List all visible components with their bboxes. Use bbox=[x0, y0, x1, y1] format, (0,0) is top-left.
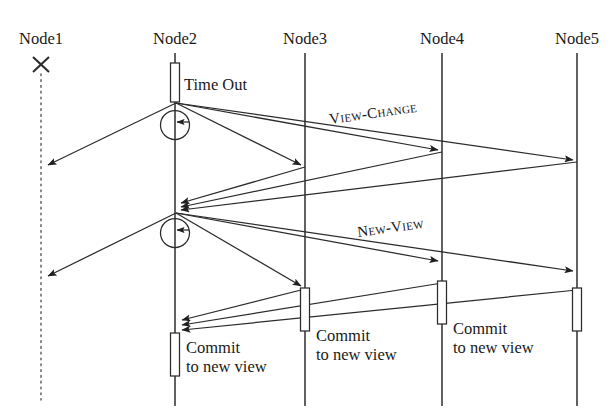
lifeline-header-node1: Node1 bbox=[19, 29, 63, 48]
lifeline-headers-group: Node1 Node2 Node3 Node4 Node5 bbox=[19, 29, 599, 48]
lifeline-header-node4: Node4 bbox=[420, 29, 464, 48]
message-newview-node2-to-node1 bbox=[48, 213, 176, 276]
message-commit-node4-to-node2 bbox=[182, 283, 442, 325]
lifeline-header-node3: Node3 bbox=[283, 29, 327, 48]
sequence-diagram-svg: Node1 Node2 Node3 Node4 Node5 Time Out V… bbox=[0, 0, 615, 412]
label-commit-node2-line2: to new view bbox=[186, 357, 267, 376]
label-commit-node3-line2: to new view bbox=[316, 345, 397, 364]
label-view-change: View-Change bbox=[328, 99, 418, 127]
label-commit-node4-line2: to new view bbox=[453, 338, 534, 357]
label-new-view: New-View bbox=[356, 215, 425, 240]
message-viewchange-node4-to-node2 bbox=[181, 152, 442, 207]
labels-group: Time Out View-Change New-View Commit to … bbox=[184, 75, 534, 376]
message-viewchange-node2-to-node1 bbox=[48, 103, 176, 165]
label-commit-node3-line1: Commit bbox=[316, 326, 371, 345]
message-commit-node5-to-node2 bbox=[182, 290, 577, 330]
lifeline-header-node5: Node5 bbox=[555, 29, 599, 48]
label-commit-node4-line1: Commit bbox=[453, 319, 508, 338]
activation-node2-timeout bbox=[171, 63, 180, 102]
activation-node4-commit bbox=[438, 281, 447, 324]
activation-node3-commit bbox=[301, 288, 310, 331]
lifeline-header-node2: Node2 bbox=[153, 29, 197, 48]
activation-node5-commit bbox=[573, 288, 582, 331]
label-commit-node2-line1: Commit bbox=[186, 338, 241, 357]
messages-group bbox=[48, 103, 577, 330]
label-time-out: Time Out bbox=[184, 75, 248, 94]
activation-node2-commit bbox=[171, 333, 180, 376]
sequence-diagram-canvas: Node1 Node2 Node3 Node4 Node5 Time Out V… bbox=[0, 0, 615, 412]
